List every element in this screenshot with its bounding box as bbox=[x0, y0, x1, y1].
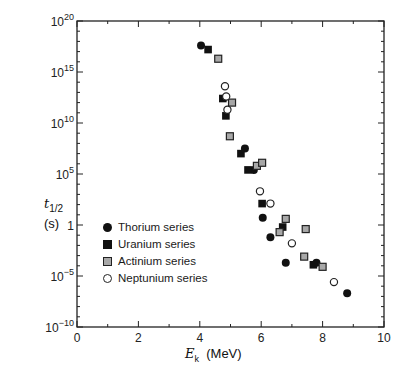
thorium-point bbox=[266, 233, 274, 241]
actinium-point bbox=[259, 159, 266, 166]
actinium-point bbox=[319, 263, 326, 270]
neptunium-point bbox=[330, 279, 337, 286]
chart-canvas: 0246810102010151010105110−510−10 bbox=[0, 0, 405, 378]
thorium-point bbox=[197, 41, 205, 49]
y-tick-label: 10−5 bbox=[50, 267, 74, 284]
uranium-point bbox=[237, 150, 245, 158]
neptunium-point bbox=[223, 93, 230, 100]
gray-square-icon bbox=[103, 257, 112, 266]
x-tick-label: 0 bbox=[74, 331, 81, 345]
legend: Thorium series Uranium series Actinium s… bbox=[103, 219, 207, 287]
actinium-point bbox=[302, 226, 309, 233]
y-tick-label: 1010 bbox=[51, 114, 74, 131]
x-tick-label: 10 bbox=[377, 331, 391, 345]
thorium-point bbox=[259, 214, 267, 222]
x-tick-label: 4 bbox=[196, 331, 203, 345]
legend-item-uranium: Uranium series bbox=[103, 236, 207, 253]
neptunium-point bbox=[256, 188, 263, 195]
y-tick-label: 1 bbox=[67, 219, 74, 233]
x-tick-label: 6 bbox=[258, 331, 265, 345]
x-tick-label: 2 bbox=[135, 331, 142, 345]
neptunium-point bbox=[288, 240, 295, 247]
y-tick-label: 10−10 bbox=[45, 318, 74, 335]
y-axis-label: t1/2 bbox=[44, 196, 63, 214]
y-tick-label: 1020 bbox=[51, 12, 74, 29]
thorium-point bbox=[282, 259, 290, 267]
uranium-point bbox=[244, 166, 252, 174]
filled-circle-icon bbox=[103, 223, 112, 232]
uranium-point bbox=[204, 46, 212, 54]
open-circle-icon bbox=[103, 274, 112, 283]
legend-item-actinium: Actinium series bbox=[103, 253, 207, 270]
x-axis-label: Ek (MeV) bbox=[185, 346, 242, 364]
y-axis-unit: (s) bbox=[44, 216, 59, 231]
neptunium-point bbox=[267, 200, 274, 207]
legend-item-neptunium: Neptunium series bbox=[103, 270, 207, 287]
neptunium-point bbox=[221, 83, 228, 90]
actinium-point bbox=[282, 215, 289, 222]
actinium-point bbox=[226, 133, 233, 140]
actinium-point bbox=[276, 229, 283, 236]
thorium-point bbox=[343, 289, 351, 297]
x-tick-label: 8 bbox=[319, 331, 326, 345]
filled-square-icon bbox=[103, 240, 112, 249]
legend-item-thorium: Thorium series bbox=[103, 219, 207, 236]
actinium-point bbox=[215, 55, 222, 62]
actinium-point bbox=[301, 253, 308, 260]
actinium-point bbox=[229, 99, 236, 106]
y-tick-label: 105 bbox=[56, 165, 74, 182]
uranium-point bbox=[310, 261, 318, 269]
y-tick-label: 1015 bbox=[51, 63, 74, 80]
neptunium-point bbox=[224, 106, 231, 113]
uranium-point bbox=[258, 200, 266, 208]
